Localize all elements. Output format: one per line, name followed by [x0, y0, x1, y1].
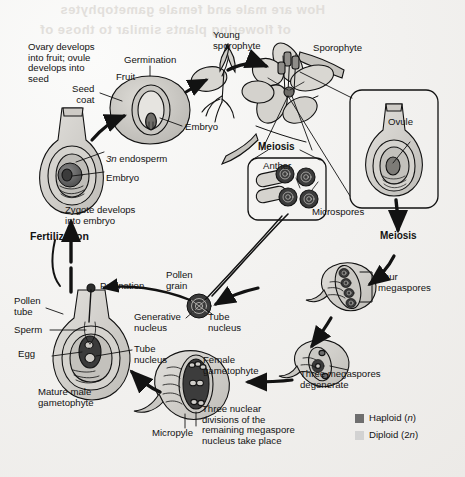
- label-sporophyte: Sporophyte: [313, 43, 362, 54]
- label-fruit: Fruit: [116, 72, 135, 83]
- young-sporophyte-shape: [189, 44, 235, 122]
- label-pollination: Pollination: [100, 281, 144, 292]
- diagram-canvas: How are male and female gametophytes of …: [0, 0, 465, 477]
- diploid-swatch-icon: [355, 431, 364, 440]
- label-germination: Germination: [124, 55, 176, 66]
- legend-row-diploid: Diploid (2n): [355, 430, 418, 440]
- fruit-shape: [110, 76, 190, 144]
- label-anther: Anther: [263, 161, 291, 172]
- label-zygote-develops: Zygote develops into embryo: [65, 205, 135, 226]
- label-mature-male-gametophyte: Mature male gametophyte: [38, 387, 93, 408]
- label-microspores: Microspores: [312, 207, 364, 218]
- legend-label-diploid: Diploid (2n): [369, 430, 418, 440]
- label-embryo-seed: Embryo: [106, 173, 139, 184]
- label-tube-nucleus-gam: Tube nucleus: [134, 344, 167, 365]
- label-tube-nucleus-grain: Tube nucleus: [208, 312, 241, 333]
- label-embryo-fruit: Embryo: [185, 122, 218, 133]
- label-fertilization: Fertilization: [30, 231, 89, 242]
- mature-male-gametophyte-shape: [53, 284, 130, 400]
- label-meiosis-anther: Meiosis: [258, 142, 295, 153]
- label-three-nuclear-divisions: Three nuclear divisions of the remaining…: [202, 404, 295, 446]
- label-pollen-grain: Pollen grain: [166, 270, 193, 291]
- label-pollen-tube: Pollen tube: [14, 296, 41, 317]
- label-micropyle: Micropyle: [152, 428, 193, 439]
- label-endosperm: 3n endosperm: [106, 154, 167, 165]
- label-female-gametophyte: Female gametophyte: [203, 355, 258, 376]
- four-megaspores-shape: [306, 263, 376, 311]
- haploid-swatch-icon: [355, 414, 364, 423]
- label-young-sporophyte: Young sporophyte: [213, 30, 260, 51]
- label-egg: Egg: [18, 349, 35, 360]
- legend-label-haploid: Haploid (n): [369, 413, 416, 423]
- label-three-megaspores-degenerate: Three megaspores degenerate: [300, 369, 381, 390]
- label-seed-coat: Seed coat: [72, 84, 94, 105]
- ovule-inset-box: [288, 72, 438, 208]
- label-sperm: Sperm: [14, 325, 42, 336]
- label-ovule: Ovule: [388, 117, 413, 128]
- label-ovary-develops: Ovary develops into fruit; ovule develop…: [28, 42, 95, 84]
- label-generative-nucleus: Generative nucleus: [134, 312, 181, 333]
- legend-row-haploid: Haploid (n): [355, 413, 418, 423]
- legend: Haploid (n) Diploid (2n): [355, 413, 418, 447]
- label-four-megaspores: Four megaspores: [378, 272, 431, 293]
- label-meiosis-ovule: Meiosis: [380, 231, 417, 242]
- seed-ovule-shape: [40, 108, 104, 214]
